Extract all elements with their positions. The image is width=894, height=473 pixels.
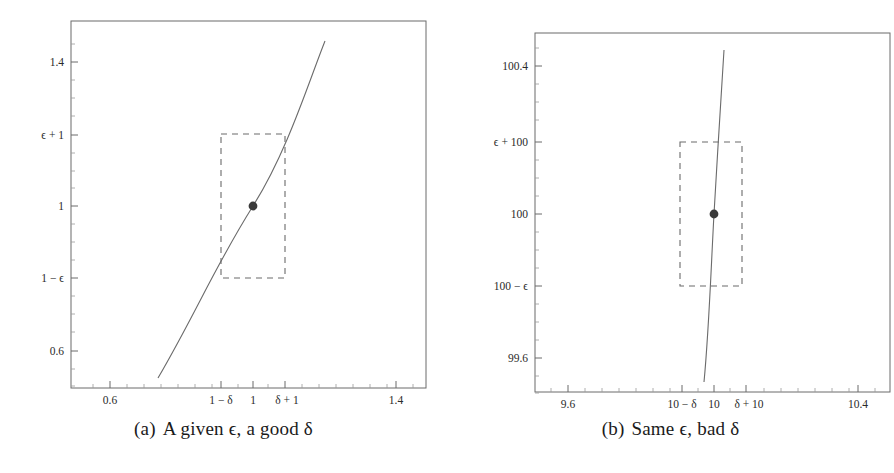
panel-a-ytick-label-0: 1.4 xyxy=(50,56,65,68)
panel-b-caption-tag: (b) xyxy=(602,418,625,439)
panel-a-ytick-label-1: ϵ + 1 xyxy=(41,129,64,141)
panel-a-caption: (a)A given ϵ, a good δ xyxy=(0,418,447,440)
panel-b-ytick-label-2: 100 xyxy=(511,208,529,220)
panel-a-xtick-label-0: 0.6 xyxy=(103,394,118,406)
panel-b-x-major-ticks xyxy=(568,385,858,392)
panel-a-xtick-label-2: 1 xyxy=(250,394,256,406)
panel-b-ytick-label-3: 100 − ϵ xyxy=(494,280,528,292)
epsilon-delta-figure: 1.4 ϵ + 1 1 1 − ϵ 0.6 xyxy=(0,0,894,473)
panel-b-y-minor-ticks xyxy=(535,48,539,393)
panel-b: 100.4 ϵ + 100 100 100 − ϵ 99.6 xyxy=(447,0,894,473)
panel-a-ytick-label-2: 1 xyxy=(58,200,64,212)
panel-b-y-major-ticks xyxy=(535,66,542,358)
panel-b-x-minor-ticks xyxy=(551,388,875,392)
panel-a-frame xyxy=(71,21,426,388)
panel-b-ytick-label-4: 99.6 xyxy=(508,352,528,364)
panel-a-plot: 1.4 ϵ + 1 1 1 − ϵ 0.6 xyxy=(0,0,447,473)
panel-b-ytick-label-0: 100.4 xyxy=(502,60,528,72)
panel-b-xtick-label-2: 10 xyxy=(708,398,720,410)
panel-a-ytick-label-3: 1 − ϵ xyxy=(41,272,64,284)
panel-b-plot: 100.4 ϵ + 100 100 100 − ϵ 99.6 xyxy=(447,0,894,473)
panel-a-y-major-ticks xyxy=(71,62,78,351)
panel-b-xtick-label-0: 9.6 xyxy=(561,398,576,410)
panel-a-caption-tag: (a) xyxy=(134,418,156,439)
panel-a-xtick-label-1: 1 − δ xyxy=(209,394,232,406)
panel-a-xtick-label-3: δ + 1 xyxy=(275,394,299,406)
panel-a-function-curve xyxy=(158,41,325,378)
panel-a-y-minor-ticks xyxy=(71,44,75,386)
panel-b-xtick-label-3: δ + 10 xyxy=(734,398,763,410)
panel-b-caption: (b)Same ϵ, bad δ xyxy=(447,418,894,440)
panel-a-xtick-label-4: 1.4 xyxy=(389,394,404,406)
panel-a: 1.4 ϵ + 1 1 1 − ϵ 0.6 xyxy=(0,0,447,473)
panel-b-marker-point xyxy=(710,210,719,219)
panel-b-caption-text: Same ϵ, bad δ xyxy=(631,418,739,439)
panel-b-xtick-label-1: 10 − δ xyxy=(667,398,696,410)
panel-b-xtick-label-4: 10.4 xyxy=(848,398,868,410)
panel-a-ytick-label-4: 0.6 xyxy=(50,345,65,357)
panel-a-marker-point xyxy=(249,202,258,211)
panel-a-caption-text: A given ϵ, a good δ xyxy=(163,418,313,439)
panel-b-ytick-label-1: ϵ + 100 xyxy=(494,136,528,148)
